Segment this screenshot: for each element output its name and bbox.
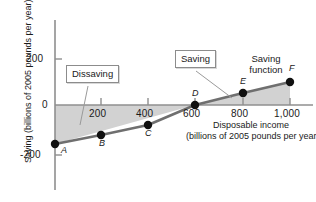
saving-function-annotation-line2: function — [239, 65, 293, 76]
data-point-e — [239, 89, 247, 97]
x-tick-label-1000: 1,000 — [274, 108, 300, 119]
saving-leader-line — [196, 71, 232, 98]
y-tick-label-0: 0 — [42, 99, 48, 110]
saving-callout: Saving — [175, 50, 216, 68]
saving-function-annotation-line1: Saving — [239, 54, 293, 65]
point-label-b: B — [99, 138, 105, 148]
data-point-a — [51, 140, 59, 148]
x-axis-title-line1: Disposable income — [186, 120, 316, 131]
point-label-c: C — [145, 128, 152, 138]
y-axis-title: Saving (billions of 2005 pounds per year… — [23, 3, 33, 163]
x-axis-title: Disposable income (billions of 2005 poun… — [186, 120, 316, 142]
x-axis-title-line2: (billions of 2005 pounds per year) — [186, 131, 316, 142]
x-tick-label-600: 600 — [183, 108, 200, 119]
y-tick-label-200: 200 — [26, 53, 43, 64]
x-tick-label-800: 800 — [231, 108, 248, 119]
dissaving-callout: Dissaving — [66, 65, 119, 83]
saving-function-chart: Saving (billions of 2005 pounds per year… — [0, 0, 316, 202]
data-point-f — [286, 78, 294, 86]
saving-function-annotation: Saving function — [239, 54, 293, 75]
x-tick-label-400: 400 — [136, 108, 153, 119]
x-tick-label-200: 200 — [89, 108, 106, 119]
point-label-a: A — [61, 145, 67, 155]
dissaving-shaded-region — [55, 105, 195, 144]
point-label-e: E — [240, 76, 246, 86]
point-label-d: D — [192, 88, 199, 98]
y-tick-label-neg200: -200 — [20, 149, 41, 160]
